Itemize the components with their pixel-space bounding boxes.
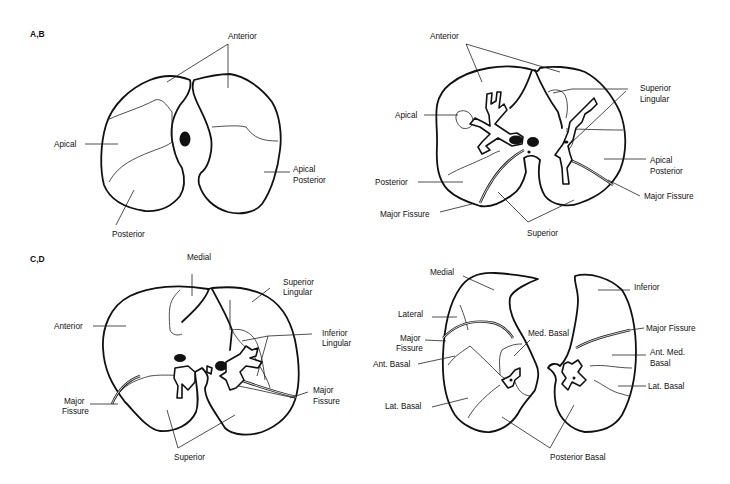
panel-label-ab: A,B [30, 29, 45, 39]
label-apical-posterior-1: Apical [650, 156, 672, 165]
label-medial: Medial [187, 253, 211, 262]
label-superior-lingular-2: Lingular [283, 288, 312, 297]
label-superior-lingular-2: Lingular [640, 95, 669, 104]
panel-label-cd: C,D [30, 254, 45, 264]
label-superior-lingular-1: Superior [640, 84, 671, 93]
label-lateral: Lateral [398, 310, 423, 319]
label-major-fissure-right-1: Major [313, 386, 334, 395]
label-ant-med-basal-1: Ant. Med. [650, 348, 685, 357]
section-c-outline [103, 286, 299, 434]
label-superior-lingular-1: Superior [283, 278, 314, 287]
panel-b: Anterior Apical Superior Lingular Apical… [375, 32, 694, 238]
label-major-fissure-left-1: Major [64, 397, 85, 406]
label-major-fissure-left-1: Major [400, 334, 421, 343]
label-major-fissure-left-2: Fissure [396, 344, 423, 353]
panel-c: C,D Medial Superior Lingular Anterior [30, 253, 351, 462]
label-major-fissure-right: Major Fissure [646, 324, 696, 333]
hilum-vessel [180, 132, 191, 147]
panel-a: A,B Anterior Apical Posterior Apical Pos… [30, 29, 326, 239]
label-posterior: Posterior [375, 178, 408, 187]
label-apical-posterior-1: Apical [293, 165, 315, 174]
label-anterior: Anterior [54, 322, 83, 331]
label-anterior: Anterior [430, 32, 459, 41]
label-superior: Superior [527, 229, 558, 238]
section-b-outline [436, 66, 625, 206]
label-lat-basal-left: Lat. Basal [385, 402, 422, 411]
label-apical-posterior-2: Posterior [650, 167, 683, 176]
label-ant-basal: Ant. Basal [373, 360, 411, 369]
section-a-right-outline [193, 74, 281, 213]
label-inferior: Inferior [634, 283, 660, 292]
label-apical: Apical [54, 140, 76, 149]
panel-d: Medial Inferior Lateral Major Fissure Ma… [373, 268, 696, 462]
label-major-fissure-right: Major Fissure [644, 192, 694, 201]
label-medial: Medial [430, 268, 454, 277]
label-superior: Superior [174, 453, 205, 462]
section-d-left-outline [443, 273, 538, 432]
label-anterior: Anterior [228, 32, 257, 41]
label-med-basal: Med. Basal [528, 329, 569, 338]
label-ant-med-basal-2: Basal [650, 359, 671, 368]
label-major-fissure-left: Major Fissure [380, 210, 430, 219]
label-inferior-lingular-2: Lingular [322, 339, 351, 348]
label-posterior-basal: Posterior Basal [550, 453, 606, 462]
label-inferior-lingular-1: Inferior [322, 329, 348, 338]
lung-segments-figure: A,B Anterior Apical Posterior Apical Pos… [0, 0, 730, 484]
label-posterior: Posterior [112, 230, 145, 239]
label-apical: Apical [395, 111, 417, 120]
label-major-fissure-left-2: Fissure [62, 407, 89, 416]
label-major-fissure-right-2: Fissure [313, 397, 340, 406]
section-d-right-outline [548, 275, 636, 432]
label-apical-posterior-2: Posterior [293, 176, 326, 185]
label-lat-basal-right: Lat. Basal [648, 382, 685, 391]
